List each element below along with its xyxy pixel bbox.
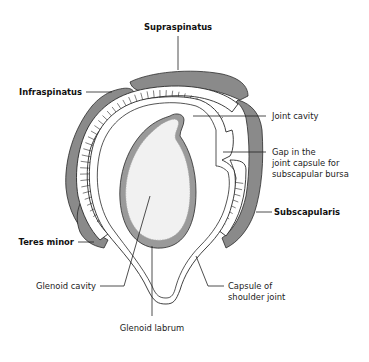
label-gap-line2: joint capsule for xyxy=(271,158,340,168)
label-capsule-line2: shoulder joint xyxy=(228,292,286,302)
label-infraspinatus: Infraspinatus xyxy=(19,87,82,97)
label-glenoid-labrum: Glenoid labrum xyxy=(120,323,184,333)
shoulder-joint-diagram: Supraspinatus Infraspinatus Joint cavity… xyxy=(0,0,369,362)
label-supraspinatus: Supraspinatus xyxy=(144,22,212,32)
label-subscapularis: Subscapularis xyxy=(274,207,340,217)
leader-capsule xyxy=(196,256,224,286)
label-joint-cavity: Joint cavity xyxy=(271,111,318,121)
label-capsule-line1: Capsule of xyxy=(228,281,273,291)
label-gap-line3: subscapular bursa xyxy=(272,169,349,179)
label-gap-line1: Gap in the xyxy=(272,147,316,157)
label-teres-minor: Teres minor xyxy=(19,237,75,247)
label-glenoid-cavity: Glenoid cavity xyxy=(36,281,96,291)
